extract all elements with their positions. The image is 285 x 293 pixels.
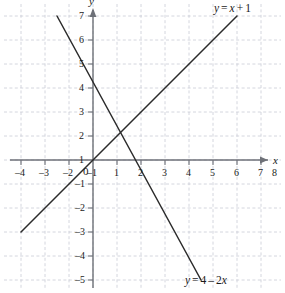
x-axis-ticks bbox=[21, 160, 261, 165]
y-tick-label-7: 7 bbox=[79, 11, 84, 21]
line2-equals: = bbox=[192, 274, 199, 286]
x-axis-label: x bbox=[273, 155, 278, 166]
x-tick-label-1: 1 bbox=[114, 168, 119, 178]
x-tick-label-8: 8 bbox=[272, 168, 277, 178]
line1-constant: 1 bbox=[245, 2, 251, 14]
x-tick-label-5: 5 bbox=[210, 168, 215, 178]
coordinate-plane bbox=[0, 0, 285, 293]
y-tick-label--4: –4 bbox=[75, 251, 85, 261]
x-tick-label-6: 6 bbox=[234, 168, 239, 178]
y-tick-label--1: –1 bbox=[75, 179, 85, 189]
y-axis bbox=[90, 8, 97, 288]
line1-equals: = bbox=[221, 2, 228, 14]
y-tick-label-2: 2 bbox=[79, 131, 84, 141]
line1-y: y bbox=[214, 2, 219, 14]
y-tick-label-3: 3 bbox=[79, 107, 84, 117]
x-tick-label-2: 2 bbox=[138, 168, 143, 178]
line2-y: y bbox=[185, 274, 190, 286]
line2-constant: 4 bbox=[201, 274, 207, 286]
line2-minus: – bbox=[208, 274, 214, 286]
y-axis-ticks bbox=[88, 16, 93, 280]
line-y-equals-4-minus-2x bbox=[57, 16, 201, 280]
y-axis-label: y bbox=[89, 0, 94, 7]
line-label-y-equals-4-minus-2x: y=4–2x bbox=[185, 275, 227, 287]
y-tick-label--5: –5 bbox=[75, 275, 85, 285]
graph-figure: –4 –3 –2 –1 0 1 2 3 4 5 6 7 8 7 6 5 4 3 … bbox=[0, 0, 285, 293]
y-tick-label-5: 5 bbox=[79, 59, 84, 69]
x-tick-label--3: –3 bbox=[39, 168, 49, 178]
x-tick-label-4: 4 bbox=[186, 168, 191, 178]
grid-vertical-lines bbox=[21, 4, 261, 289]
x-tick-label-0: 0 bbox=[83, 166, 89, 177]
x-tick-label--2: –2 bbox=[63, 168, 73, 178]
x-tick-label-3: 3 bbox=[162, 168, 167, 178]
line2-x: x bbox=[222, 274, 227, 286]
y-tick-label--2: –2 bbox=[75, 203, 85, 213]
x-tick-label--4: –4 bbox=[15, 168, 25, 178]
x-axis bbox=[10, 157, 268, 164]
y-tick-label--3: –3 bbox=[75, 227, 85, 237]
x-tick-label-7: 7 bbox=[258, 168, 263, 178]
line1-x: x bbox=[230, 2, 235, 14]
line-label-y-equals-x-plus-1: y=x+1 bbox=[214, 3, 251, 15]
grid-horizontal-lines bbox=[4, 16, 281, 280]
y-tick-label-1: 1 bbox=[79, 155, 84, 165]
line-y-equals-x-plus-1 bbox=[21, 16, 237, 232]
y-tick-label-6: 6 bbox=[79, 35, 84, 45]
y-tick-label-4: 4 bbox=[79, 83, 84, 93]
line1-plus: + bbox=[237, 2, 244, 14]
